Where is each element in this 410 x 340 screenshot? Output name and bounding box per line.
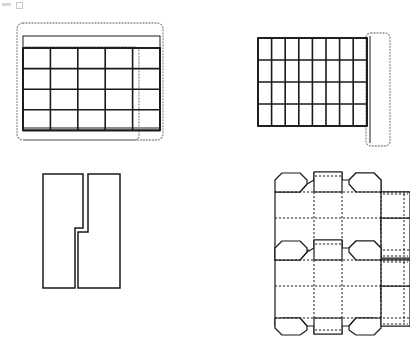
figure-tray-grid-with-offset-outline <box>17 23 163 140</box>
left-piece-step-shape <box>43 174 83 288</box>
figure-interlocking-puzzle-pieces <box>43 174 120 288</box>
drawing-sheet <box>0 0 410 340</box>
drawing-canvas <box>0 0 410 340</box>
scan-artifact-mark-left <box>2 3 11 6</box>
right-piece-step-shape <box>78 174 120 288</box>
figure-wide-grid-with-right-dashed-strip <box>258 33 390 146</box>
figure-carton-dieline-net <box>275 172 410 335</box>
grid-cells <box>258 38 367 126</box>
dashed-inner-outline <box>23 47 139 140</box>
scan-artifact-mark-right <box>16 2 23 9</box>
dashed-offset-outline <box>17 23 163 140</box>
